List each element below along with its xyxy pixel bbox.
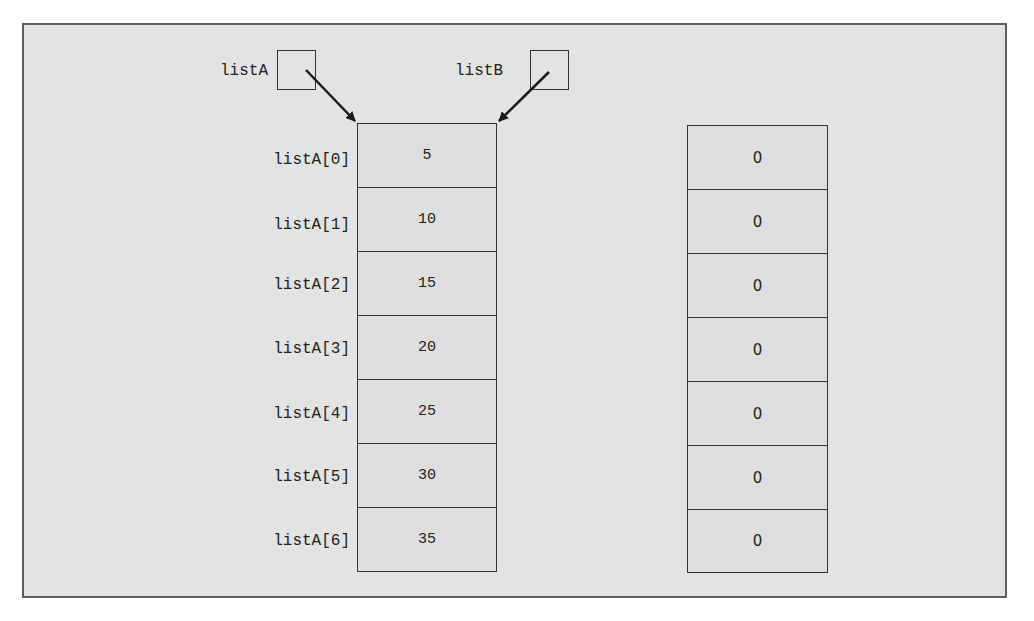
cell-value: 0 <box>753 341 763 359</box>
array-a-cell-3: 20 <box>357 315 497 380</box>
index-label: listA[3] <box>230 339 350 359</box>
pointer-label-listB: listB <box>455 61 503 81</box>
index-label: listA[0] <box>230 150 350 170</box>
array-b-cell-1: 0 <box>687 189 828 254</box>
array-b-cell-2: 0 <box>687 253 828 318</box>
index-label: listA[4] <box>230 404 350 424</box>
cell-value: 0 <box>753 469 763 487</box>
array-a-cell-1: 10 <box>357 187 497 252</box>
pointer-box-listA <box>277 50 316 90</box>
array-b-cell-6: 0 <box>687 509 828 573</box>
index-label: listA[2] <box>230 275 350 295</box>
array-a-cell-4: 25 <box>357 379 497 444</box>
cell-value: 35 <box>418 531 436 548</box>
cell-value: 0 <box>753 405 763 423</box>
cell-value: 0 <box>753 532 763 550</box>
array-a-cell-5: 30 <box>357 443 497 508</box>
array-a-cell-2: 15 <box>357 251 497 316</box>
array-a-cell-0: 5 <box>357 123 497 188</box>
cell-value: 20 <box>418 339 436 356</box>
array-b-cell-5: 0 <box>687 445 828 510</box>
array-b-cell-4: 0 <box>687 381 828 446</box>
array-b: 0 0 0 0 0 0 0 <box>687 125 828 573</box>
diagram-frame <box>22 23 1007 598</box>
index-label: listA[1] <box>230 215 350 235</box>
array-a: 5 10 15 20 25 30 35 <box>357 123 497 572</box>
cell-value: 0 <box>753 213 763 231</box>
array-a-cell-6: 35 <box>357 507 497 572</box>
pointer-label-listA: listA <box>220 61 268 81</box>
cell-value: 0 <box>753 277 763 295</box>
index-label: listA[6] <box>230 531 350 551</box>
array-b-cell-3: 0 <box>687 317 828 382</box>
cell-value: 5 <box>422 147 431 164</box>
cell-value: 10 <box>418 211 436 228</box>
cell-value: 0 <box>753 149 763 167</box>
pointer-box-listB <box>530 50 569 90</box>
array-b-cell-0: 0 <box>687 125 828 190</box>
cell-value: 15 <box>418 275 436 292</box>
cell-value: 25 <box>418 403 436 420</box>
index-label: listA[5] <box>230 467 350 487</box>
cell-value: 30 <box>418 467 436 484</box>
